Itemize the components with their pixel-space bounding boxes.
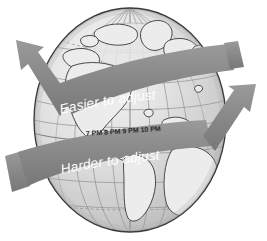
- arctic-island-shape: [81, 35, 99, 46]
- globe-illustration: Harder to adjust Easier to adjust 7 PM 8…: [0, 0, 267, 241]
- globe-figure-canvas: Harder to adjust Easier to adjust 7 PM 8…: [0, 0, 267, 241]
- island-mediterranean-shape: [195, 85, 203, 92]
- island-caribbean-shape: [144, 109, 153, 117]
- earth-globe: [33, 8, 227, 232]
